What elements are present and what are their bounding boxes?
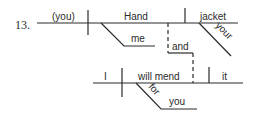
sentence-diagram: 13. (you) Hand jacket me your and I will…: [0, 0, 259, 124]
clause1-indirect-object: me: [131, 33, 145, 44]
clause1-subject: (you): [52, 11, 75, 22]
indirect-object-line: [101, 23, 155, 46]
clause2-direct-object: it: [222, 71, 227, 82]
prep-object: you: [169, 96, 185, 107]
clause1-verb: Hand: [124, 11, 148, 22]
prepositional-phrase-line: [136, 83, 197, 109]
conjunction-word: and: [172, 41, 189, 52]
clause2-subject: I: [104, 71, 107, 82]
clause2-verb: will mend: [137, 71, 180, 82]
exercise-number: 13.: [15, 18, 30, 32]
